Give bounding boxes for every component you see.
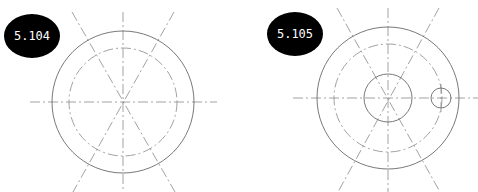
figure-5-104: 5.104 bbox=[4, 12, 217, 192]
diagonal-centerline bbox=[338, 8, 439, 192]
diagram-canvas: 5.104 5.105 bbox=[0, 0, 478, 192]
figure-label: 5.104 bbox=[14, 29, 50, 43]
figure-label: 5.105 bbox=[277, 27, 313, 41]
figure-5-105: 5.105 bbox=[267, 8, 478, 192]
